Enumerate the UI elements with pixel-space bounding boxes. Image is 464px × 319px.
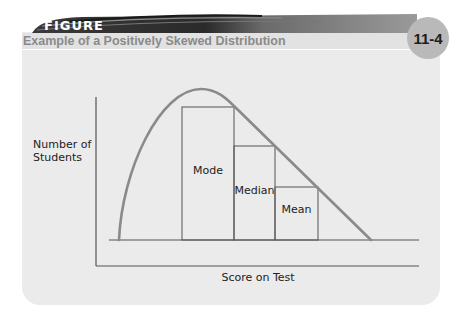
median-label: Median	[234, 184, 275, 197]
x-axis-label: Score on Test	[0, 271, 464, 284]
distribution-curve	[119, 89, 371, 240]
mean-label: Mean	[275, 203, 318, 216]
y-axis-label: Number of Students	[33, 138, 91, 164]
y-axis-label-line2: Students	[33, 151, 91, 164]
mode-label: Mode	[182, 164, 234, 177]
y-axis-label-line1: Number of	[33, 138, 91, 151]
